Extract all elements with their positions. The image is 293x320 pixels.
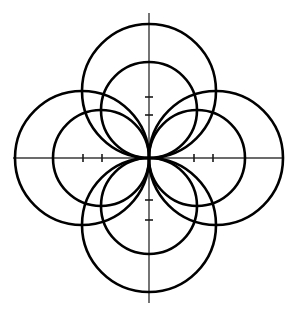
figure-canvas — [0, 0, 293, 320]
rose-curve-figure — [0, 0, 293, 320]
